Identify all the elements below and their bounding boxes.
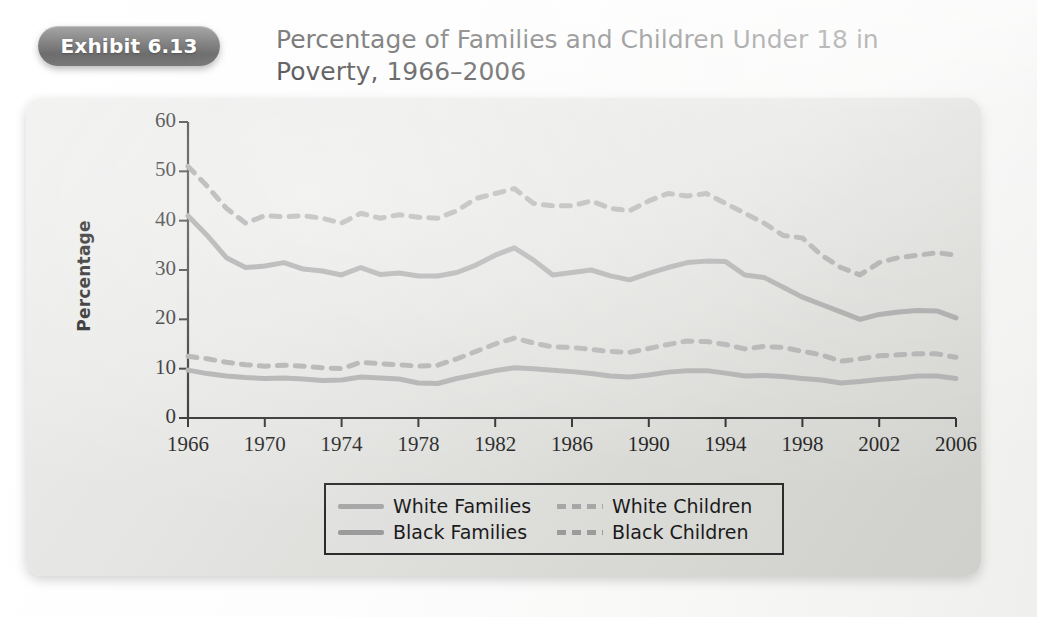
legend-swatch-dashed — [557, 504, 603, 509]
exhibit-badge: Exhibit 6.13 — [38, 26, 220, 66]
page-title: Percentage of Families and Children Unde… — [276, 24, 936, 88]
chart-plot-area: Percentage 0102030405060 196619701974197… — [26, 98, 981, 576]
chart-legend: White FamiliesWhite ChildrenBlack Famili… — [324, 483, 784, 555]
legend-swatch-solid — [338, 504, 384, 509]
legend-item: Black Families — [338, 521, 551, 543]
legend-item: White Children — [557, 495, 770, 517]
legend-label: Black Children — [612, 521, 749, 543]
exhibit-badge-label: Exhibit 6.13 — [60, 34, 197, 58]
chart-panel: Percentage 0102030405060 196619701974197… — [26, 98, 981, 576]
legend-label: White Families — [393, 495, 531, 517]
page-background: Exhibit 6.13 Percentage of Families and … — [0, 0, 1037, 617]
legend-label: Black Families — [393, 521, 527, 543]
legend-swatch-dashed — [557, 530, 603, 535]
legend-item: White Families — [338, 495, 551, 517]
series-line-white-families — [188, 368, 956, 384]
legend-swatch-solid — [338, 530, 384, 535]
legend-item: Black Children — [557, 521, 770, 543]
series-line-white-children — [188, 338, 956, 369]
series-line-black-children — [188, 166, 956, 275]
legend-label: White Children — [612, 495, 752, 517]
